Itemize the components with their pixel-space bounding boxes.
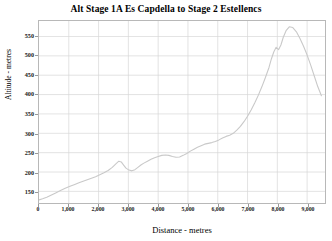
x-tick-label: 6,000 [211, 207, 224, 213]
x-tick-label: 7,000 [241, 207, 254, 213]
y-tick-mark [35, 36, 38, 37]
x-tick-label: 9,000 [301, 207, 314, 213]
x-tick-label: 2,000 [91, 207, 104, 213]
y-tick-label: 200 [4, 170, 34, 176]
x-axis-label: Distance - metres [38, 225, 326, 235]
x-tick-label: 5,000 [181, 207, 194, 213]
y-tick-mark [35, 153, 38, 154]
y-tick-mark [35, 134, 38, 135]
x-tick-mark [158, 204, 159, 207]
y-tick-mark [35, 55, 38, 56]
x-tick-mark [218, 204, 219, 207]
x-tick-mark [38, 204, 39, 207]
x-tick-mark [308, 204, 309, 207]
x-tick-mark [278, 204, 279, 207]
y-tick-mark [35, 75, 38, 76]
x-tick-mark [68, 204, 69, 207]
x-tick-label: 4,000 [151, 207, 164, 213]
x-tick-label: 8,000 [271, 207, 284, 213]
x-tick-mark [248, 204, 249, 207]
x-tick-mark [188, 204, 189, 207]
y-tick-mark [35, 192, 38, 193]
y-tick-label: 150 [4, 189, 34, 195]
x-tick-mark [128, 204, 129, 207]
y-tick-mark [35, 114, 38, 115]
x-tick-label: 3,000 [121, 207, 134, 213]
y-tick-mark [35, 173, 38, 174]
y-tick-label: 250 [4, 150, 34, 156]
x-tick-label: 1,000 [61, 207, 74, 213]
y-axis-label: Altitude - metres [4, 15, 13, 135]
y-tick-mark [35, 94, 38, 95]
elevation-chart: Alt Stage 1A Es Capdella to Stage 2 Este… [0, 0, 332, 241]
x-tick-mark [98, 204, 99, 207]
y-axis-ticks: 150200250300350400450500550 [0, 0, 332, 241]
x-tick-label: 0 [37, 207, 40, 213]
